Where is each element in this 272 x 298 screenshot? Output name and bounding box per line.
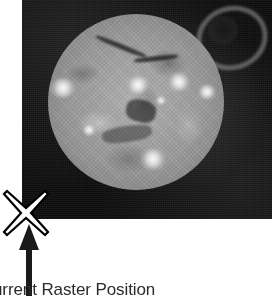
figure-root: urrent Raster Position — [0, 0, 272, 298]
caption-label: urrent Raster Position — [0, 281, 272, 298]
solar-image-panel — [22, 0, 272, 219]
active-region-northeast — [168, 72, 190, 92]
active-region-north-center — [126, 76, 150, 94]
coronal-loop-core — [208, 16, 238, 44]
active-region-east — [198, 84, 216, 100]
active-region-south — [140, 148, 166, 170]
active-region-center-small — [156, 96, 166, 105]
active-region-southwest-small — [82, 124, 96, 136]
active-region-west-limb — [50, 78, 76, 98]
